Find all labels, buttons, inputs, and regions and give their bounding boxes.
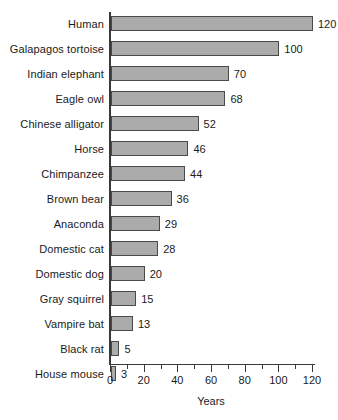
- bar: [111, 191, 172, 206]
- bar: [111, 141, 188, 156]
- category-label: House mouse: [35, 362, 104, 387]
- bar-value-label: 100: [284, 41, 302, 57]
- bar-chart: Human120Galapagos tortoise100Indian elep…: [0, 0, 338, 420]
- bar-value-label: 13: [138, 316, 150, 332]
- bar-value-label: 70: [234, 66, 246, 82]
- x-tick-label: 20: [138, 374, 150, 386]
- x-tick-label: 60: [205, 374, 217, 386]
- bar: [111, 66, 229, 81]
- bar-value-label: 29: [165, 216, 177, 232]
- category-label: Domestic dog: [36, 262, 104, 287]
- x-tick-major: [245, 365, 246, 372]
- bar: [111, 16, 313, 31]
- category-label: Human: [68, 12, 104, 37]
- x-tick-label: 40: [171, 374, 183, 386]
- x-tick-major: [144, 365, 145, 372]
- bar-row: Horse46: [110, 137, 312, 162]
- x-tick-major: [278, 365, 279, 372]
- bar: [111, 41, 279, 56]
- bar: [111, 316, 133, 331]
- category-label: Vampire bat: [44, 312, 104, 337]
- category-label: Eagle owl: [55, 87, 104, 112]
- x-axis-ticks: 020406080100120: [110, 365, 316, 395]
- category-label: Chinese alligator: [20, 112, 104, 137]
- bar-value-label: 44: [190, 166, 202, 182]
- plot-area: Human120Galapagos tortoise100Indian elep…: [110, 12, 312, 364]
- bar-value-label: 28: [163, 241, 175, 257]
- category-label: Brown bear: [47, 187, 104, 212]
- x-tick-major: [312, 365, 313, 372]
- x-tick-minor: [127, 365, 128, 369]
- bar-value-label: 5: [124, 341, 130, 357]
- x-tick-minor: [228, 365, 229, 369]
- bar: [111, 216, 160, 231]
- bar-row: Domestic dog20: [110, 262, 312, 287]
- category-label: Horse: [74, 137, 104, 162]
- bar-row: Human120: [110, 12, 312, 37]
- bar-row: Vampire bat13: [110, 312, 312, 337]
- bar-row: Gray squirrel15: [110, 287, 312, 312]
- category-label: Domestic cat: [39, 237, 104, 262]
- bar: [111, 341, 119, 356]
- bar-row: Galapagos tortoise100: [110, 37, 312, 62]
- x-tick-minor: [295, 365, 296, 369]
- x-tick-major: [110, 365, 111, 372]
- bar-value-label: 120: [318, 16, 336, 32]
- bar-row: Domestic cat28: [110, 237, 312, 262]
- x-tick-minor: [262, 365, 263, 369]
- category-label: Black rat: [60, 337, 104, 362]
- x-tick-label: 80: [239, 374, 251, 386]
- category-label: Anaconda: [54, 212, 104, 237]
- bar-value-label: 36: [177, 191, 189, 207]
- bar-row: Brown bear36: [110, 187, 312, 212]
- bar-value-label: 15: [141, 291, 153, 307]
- bar-value-label: 68: [230, 91, 242, 107]
- bar-row: Anaconda29: [110, 212, 312, 237]
- category-label: Gray squirrel: [40, 287, 104, 312]
- bar-value-label: 52: [204, 116, 216, 132]
- x-tick-label: 0: [107, 374, 113, 386]
- bar-value-label: 46: [193, 141, 205, 157]
- x-axis-title: Years: [110, 395, 312, 407]
- bar: [111, 166, 185, 181]
- bar: [111, 291, 136, 306]
- bar-row: Eagle owl68: [110, 87, 312, 112]
- bar: [111, 241, 158, 256]
- bar: [111, 116, 199, 131]
- x-tick-major: [177, 365, 178, 372]
- bar-row: Indian elephant70: [110, 62, 312, 87]
- bar-row: Chimpanzee44: [110, 162, 312, 187]
- x-tick-minor: [161, 365, 162, 369]
- bar-row: Black rat5: [110, 337, 312, 362]
- x-tick-label: 120: [303, 374, 321, 386]
- category-label: Chimpanzee: [41, 162, 104, 187]
- bar-value-label: 20: [150, 266, 162, 282]
- x-tick-minor: [194, 365, 195, 369]
- category-label: Galapagos tortoise: [10, 37, 104, 62]
- bar: [111, 266, 145, 281]
- x-tick-major: [211, 365, 212, 372]
- bar-row: Chinese alligator52: [110, 112, 312, 137]
- bar: [111, 91, 225, 106]
- x-tick-label: 100: [269, 374, 287, 386]
- category-label: Indian elephant: [27, 62, 104, 87]
